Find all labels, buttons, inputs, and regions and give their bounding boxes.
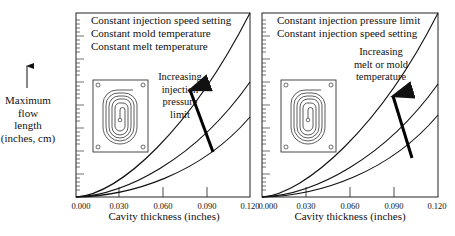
- left-condition-line: Constant mold temperature: [91, 27, 231, 40]
- right-callout-line: melt or mold: [348, 59, 414, 72]
- y-axis-label-line: length: [0, 119, 56, 132]
- right-callout-line: Increasing: [348, 46, 414, 59]
- left-x-axis-title: Cavity thickness (inches): [76, 210, 252, 222]
- right-callout: Increasing melt or mold temperature: [348, 46, 414, 84]
- left-condition-line: Constant melt temperature: [91, 40, 231, 53]
- y-axis-label-line: flow: [0, 107, 56, 120]
- left-callout-line: Increasing: [150, 71, 210, 84]
- left-spiral-mold-icon: [93, 80, 148, 152]
- right-condition-line: Constant injection pressure limit: [277, 14, 420, 27]
- left-x-ticks: [119, 187, 207, 197]
- right-callout-line: temperature: [348, 71, 414, 84]
- right-x-axis-title: Cavity thickness (inches): [262, 210, 438, 222]
- left-conditions: Constant injection speed setting Constan…: [91, 14, 231, 53]
- right-panel-plot: [262, 13, 438, 197]
- left-y-minor-ticks: [76, 20, 84, 190]
- left-condition-line: Constant injection speed setting: [91, 14, 231, 27]
- right-conditions: Constant injection pressure limit Consta…: [277, 14, 420, 40]
- right-spiral-mold-icon: [281, 80, 336, 152]
- right-condition-line: Constant injection speed setting: [277, 27, 420, 40]
- left-callout-line: injection: [150, 84, 210, 97]
- y-axis-label-line: Maximum: [0, 94, 56, 107]
- left-callout-line: pressure: [150, 96, 210, 109]
- right-y-minor-ticks: [262, 20, 270, 190]
- y-axis-label-line: (inches, cm): [0, 132, 56, 145]
- left-callout: Increasing injection pressure limit: [150, 71, 210, 121]
- left-callout-line: limit: [150, 109, 210, 122]
- y-axis-label: Maximum flow length (inches, cm): [0, 94, 56, 144]
